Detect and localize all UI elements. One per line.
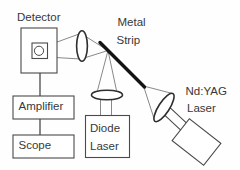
diagram-canvas: Detector Metal Strip Amplifier Scope Dio… — [0, 0, 240, 170]
diode-laser-label-line1: Diode — [90, 122, 120, 134]
optical-setup-diagram: Detector Metal Strip Amplifier Scope Dio… — [0, 0, 240, 170]
beam-line — [98, 51, 109, 91]
beam-line — [144, 86, 156, 122]
detector-label: Detector — [17, 11, 61, 23]
beam-line — [144, 86, 173, 94]
diode-laser-label-line2: Laser — [90, 140, 119, 152]
diode-lens — [92, 90, 123, 100]
metal-strip-label-line1: Metal — [118, 16, 146, 28]
ndyag-laser-label-line2: Laser — [187, 102, 216, 114]
diode-beam-lines — [98, 51, 117, 116]
metal-strip-label-line2: Strip — [117, 34, 141, 46]
collection-lens — [77, 31, 88, 62]
scope-label: Scope — [19, 139, 52, 151]
ndyag-laser-label-line1: Nd:YAG — [186, 85, 227, 97]
amplifier-label: Amplifier — [19, 100, 64, 112]
metal-strip-line — [100, 43, 145, 88]
